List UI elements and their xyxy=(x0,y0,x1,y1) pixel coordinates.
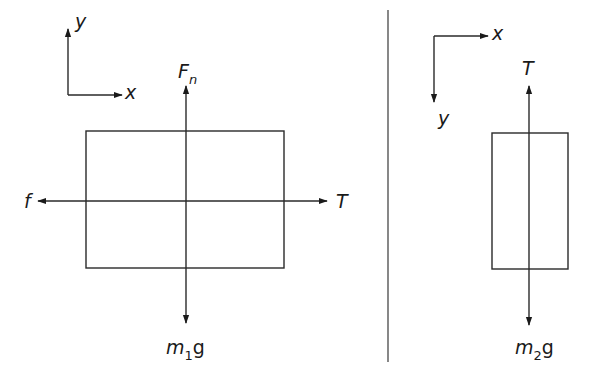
y-axis-label: y xyxy=(74,10,87,32)
tension-1-label: T xyxy=(336,190,349,212)
weight-2-label: m2g xyxy=(515,336,554,363)
left-axes xyxy=(68,29,122,95)
x-axis-label: x xyxy=(124,81,137,103)
normal-force-label: Fn xyxy=(178,60,197,87)
y-axis-label: y xyxy=(437,107,450,129)
right-panel: x y T m2g xyxy=(434,22,568,363)
block-1 xyxy=(86,131,284,268)
right-axes xyxy=(434,36,488,102)
free-body-diagram: y x Fn f T m1g x y T m2g xyxy=(0,0,590,384)
x-axis-label: x xyxy=(491,22,504,44)
weight-1-label: m1g xyxy=(166,336,205,363)
block-2 xyxy=(492,133,568,269)
friction-label: f xyxy=(24,190,34,212)
tension-2-label: T xyxy=(522,57,535,79)
left-panel: y x Fn f T m1g xyxy=(24,10,349,363)
